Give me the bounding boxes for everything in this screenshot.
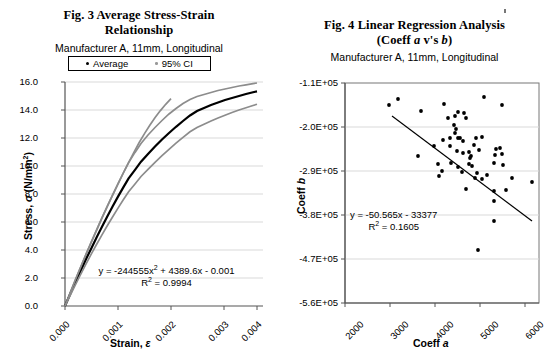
figure-4-subtitle: Manufacturer A, 11mm, Longitudinal [282,51,547,64]
ci-dot-icon [155,62,158,65]
fig4-yaxis-title: Coeff b [295,151,307,241]
fig3-ytick-14: 14.0 [2,105,38,115]
fig4-xtick-6000: 6000 [514,319,545,350]
figure-4-title-line1: Fig. 4 Linear Regression Analysis [324,18,505,32]
fig4-trendline [392,116,532,221]
fig3-x-ticks [65,306,257,310]
fig4-xtick-2000: 2000 [334,319,365,350]
average-dot-icon [86,62,89,65]
fig3-xtick-2: 0.002 [149,319,177,347]
scan-speck [504,9,506,13]
fig3-yaxis-title: Stress, σ (N/mm2) [22,126,34,266]
fig4-r2-line: R2 = 0.1605 [350,221,437,233]
fig3-ytick-0: 0.0 [2,301,38,311]
fig4-x-ticks [345,303,525,307]
fig3-equation-annotation: y = -244555x2 + 4389.6x - 0.001 R2 = 0.9… [64,265,269,289]
fig4-xtick-5000: 5000 [469,319,500,350]
fig4-ytick-11: -1.1E+05 [280,78,338,88]
figure-3-title: Fig. 3 Average Stress-Strain Relationshi… [14,8,264,37]
fig4-ytick-29: -2.9E+05 [280,166,338,176]
fig3-r2-line: R2 = 0.9994 [64,277,269,289]
fig4-xaxis-title: Coeff a [413,337,449,349]
fig4-plot-area [340,78,545,310]
fig4-ytick-47: -4.7E+05 [280,254,338,264]
figure-3-subtitle: Manufacturer A, 11mm, Longitudinal [14,42,264,55]
fig3-xaxis-title: Strain, ε [110,337,151,349]
legend-entry-ci: 95% CI [155,59,193,69]
figure-3-legend: Average 95% CI [68,56,211,71]
fig4-gridlines [345,127,539,259]
legend-label-average: Average [93,59,128,69]
fig3-ytick-2: 2.0 [2,273,38,283]
fig4-equation-line: y = -50.565x - 33377 [350,209,437,221]
fig3-xtick-0: 0.000 [43,319,71,347]
figure-3-title-line2: Relationship [105,23,174,37]
legend-entry-average: Average [86,59,128,69]
figure-3-stress-strain: Fig. 3 Average Stress-Strain Relationshi… [0,0,278,359]
fig3-xtick-4: 0.004 [235,319,263,347]
fig4-ytick-38: -3.8E+05 [280,210,338,220]
fig4-ytick-20: -2.0E+05 [280,122,338,132]
figure-3-title-line1: Fig. 3 Average Stress-Strain [64,8,215,22]
fig4-equation-annotation: y = -50.565x - 33377 R2 = 0.1605 [350,209,437,233]
fig3-equation-line: y = -244555x2 + 4389.6x - 0.001 [64,265,269,277]
figure-4-title-line2: (Coeff a v's b) [377,33,452,47]
fig4-y-ticks [341,83,345,303]
figure-4-regression: Fig. 4 Linear Regression Analysis (Coeff… [278,0,551,359]
legend-label-ci: 95% CI [162,59,193,69]
fig4-plot-frame [345,83,539,303]
fig4-xtick-3000: 3000 [379,319,410,350]
fig3-xtick-3: 0.003 [202,319,230,347]
figure-4-title: Fig. 4 Linear Regression Analysis (Coeff… [282,18,547,47]
fig4-ytick-56: -5.6E+05 [280,298,338,308]
fig3-ytick-16: 16.0 [2,77,38,87]
